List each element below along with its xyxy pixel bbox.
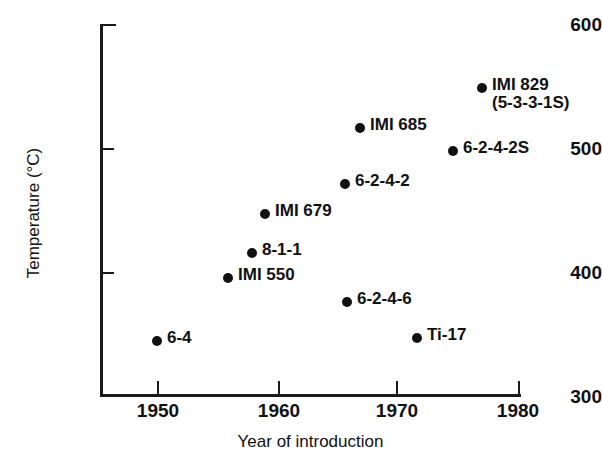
marker-dot xyxy=(342,297,352,307)
data-point-label: 6-2-4-2 xyxy=(355,172,410,190)
data-point-sublabel: (5-3-3-1S) xyxy=(492,94,569,112)
y-tick-500 xyxy=(103,148,114,150)
x-tick-1970 xyxy=(396,381,398,394)
marker-dot xyxy=(340,179,350,189)
y-axis-title: Temperature (°C) xyxy=(24,103,44,323)
data-point-label: Ti-17 xyxy=(427,326,466,344)
data-point-label: IMI 829 (5-3-3-1S) xyxy=(492,76,569,113)
x-ticklabel-1980: 1980 xyxy=(483,400,553,422)
x-ticklabel-1950: 1950 xyxy=(123,400,193,422)
marker-dot xyxy=(448,146,458,156)
y-tick-400 xyxy=(103,272,114,274)
y-ticklabel-300: 300 xyxy=(548,386,602,408)
y-ticklabel-600: 600 xyxy=(548,14,602,36)
x-axis-title: Year of introduction xyxy=(100,432,521,452)
marker-dot xyxy=(223,273,233,283)
data-point-label: IMI 679 xyxy=(275,202,332,220)
data-point-label: IMI 550 xyxy=(238,266,295,284)
data-point-label-main: IMI 829 xyxy=(492,75,549,94)
x-axis-line xyxy=(100,394,521,397)
data-point-label: 6-2-4-2S xyxy=(463,139,529,157)
marker-dot xyxy=(477,83,487,93)
data-point-label: 6-2-4-6 xyxy=(357,290,412,308)
x-ticklabel-1970: 1970 xyxy=(362,400,432,422)
y-tick-600 xyxy=(103,24,116,26)
data-point-label: 6-4 xyxy=(167,329,192,347)
data-point-label: 8-1-1 xyxy=(262,241,302,259)
y-ticklabel-500: 500 xyxy=(548,138,602,160)
y-ticklabel-400: 400 xyxy=(548,262,602,284)
x-ticklabel-1960: 1960 xyxy=(244,400,314,422)
marker-dot xyxy=(260,209,270,219)
marker-dot xyxy=(247,248,257,258)
x-tick-1980 xyxy=(518,381,520,395)
data-point-label: IMI 685 xyxy=(370,116,427,134)
marker-dot xyxy=(355,123,365,133)
x-tick-1950 xyxy=(157,381,159,394)
x-tick-1960 xyxy=(278,381,280,394)
marker-dot xyxy=(412,333,422,343)
y-tick-300 xyxy=(103,395,116,397)
marker-dot xyxy=(152,336,162,346)
scatter-chart-figure: 600 500 400 300 1950 1960 1970 1980 Temp… xyxy=(0,0,602,474)
y-axis-line xyxy=(100,24,103,397)
